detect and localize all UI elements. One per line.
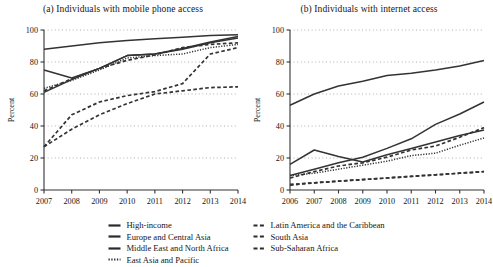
svg-text:2010: 2010 xyxy=(119,197,135,206)
legend-item-label: Latin America and the Caribbean xyxy=(271,220,385,230)
panels-container: (a) Individuals with mobile phone access… xyxy=(0,0,493,215)
legend-line-swatch-icon xyxy=(108,232,121,241)
legend-item-label: High-income xyxy=(126,220,171,230)
svg-text:2014: 2014 xyxy=(230,197,246,206)
panel-b-svg: 0204060801002006200720082009201020112012… xyxy=(246,0,492,215)
svg-text:Percent: Percent xyxy=(253,97,262,122)
legend-line-swatch-icon xyxy=(253,244,266,253)
svg-text:2010: 2010 xyxy=(379,197,395,206)
svg-text:2013: 2013 xyxy=(202,197,218,206)
svg-text:2007: 2007 xyxy=(36,197,52,206)
panel-a-svg: 0204060801002007200820092010201120122013… xyxy=(0,0,246,215)
svg-text:2009: 2009 xyxy=(91,197,107,206)
panel-b-plot: 0204060801002006200720082009201020112012… xyxy=(246,0,492,215)
svg-text:20: 20 xyxy=(30,154,38,163)
legend-line-swatch-icon xyxy=(253,232,266,241)
svg-text:Percent: Percent xyxy=(7,97,16,122)
series-line xyxy=(44,43,238,91)
legend-item[interactable]: Middle East and North Africa xyxy=(108,243,228,253)
svg-text:2011: 2011 xyxy=(403,197,419,206)
svg-text:80: 80 xyxy=(30,58,38,67)
legend-line-swatch-icon xyxy=(108,255,121,264)
svg-text:2013: 2013 xyxy=(452,197,468,206)
legend-item[interactable]: East Asia and Pacific xyxy=(108,255,228,265)
legend-column-left: High-incomeEurope and Central AsiaMiddle… xyxy=(108,220,228,267)
legend-item[interactable]: Latin America and the Caribbean xyxy=(253,220,385,230)
legend-item[interactable]: Europe and Central Asia xyxy=(108,232,228,242)
svg-text:80: 80 xyxy=(276,58,284,67)
legend-item-label: Sub-Saharan Africa xyxy=(271,243,339,253)
legend-item[interactable]: High-income xyxy=(108,220,228,230)
series-line xyxy=(44,44,238,88)
svg-text:2008: 2008 xyxy=(64,197,80,206)
series-line xyxy=(290,60,484,105)
figure-root: (a) Individuals with mobile phone access… xyxy=(0,0,493,267)
svg-text:100: 100 xyxy=(272,26,284,35)
panel-b: (b) Individuals with internet access 020… xyxy=(246,0,492,215)
series-line xyxy=(44,87,238,147)
svg-text:20: 20 xyxy=(276,154,284,163)
legend-line-swatch-icon xyxy=(253,221,266,230)
legend-item[interactable]: Sub-Saharan Africa xyxy=(253,243,385,253)
panel-a-plot: 0204060801002007200820092010201120122013… xyxy=(0,0,246,215)
legend-item-label: South Asia xyxy=(271,232,308,242)
legend-item-label: East Asia and Pacific xyxy=(126,255,199,265)
legend-line-swatch-icon xyxy=(108,244,121,253)
series-line xyxy=(290,128,484,178)
svg-text:2014: 2014 xyxy=(476,197,492,206)
svg-text:2011: 2011 xyxy=(147,197,163,206)
svg-text:2012: 2012 xyxy=(427,197,443,206)
legend-column-right: Latin America and the CaribbeanSouth Asi… xyxy=(253,220,385,267)
svg-text:0: 0 xyxy=(280,186,284,195)
series-line xyxy=(290,172,484,185)
svg-text:60: 60 xyxy=(276,90,284,99)
svg-text:0: 0 xyxy=(34,186,38,195)
panel-a: (a) Individuals with mobile phone access… xyxy=(0,0,246,215)
svg-text:2006: 2006 xyxy=(282,197,298,206)
legend-line-swatch-icon xyxy=(108,221,121,230)
legend: High-incomeEurope and Central AsiaMiddle… xyxy=(0,216,493,267)
svg-text:100: 100 xyxy=(26,26,38,35)
series-line xyxy=(44,48,238,147)
svg-text:2008: 2008 xyxy=(330,197,346,206)
svg-text:2012: 2012 xyxy=(174,197,190,206)
legend-item[interactable]: South Asia xyxy=(253,232,385,242)
svg-text:60: 60 xyxy=(30,90,38,99)
svg-text:2009: 2009 xyxy=(355,197,371,206)
svg-text:2007: 2007 xyxy=(306,197,322,206)
svg-text:40: 40 xyxy=(276,122,284,131)
svg-text:40: 40 xyxy=(30,122,38,131)
legend-item-label: Europe and Central Asia xyxy=(126,232,210,242)
legend-item-label: Middle East and North Africa xyxy=(126,243,228,253)
